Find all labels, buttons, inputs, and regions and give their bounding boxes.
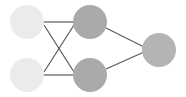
neural-network-diagram (0, 0, 186, 97)
network-node (73, 5, 107, 39)
network-node (142, 33, 176, 67)
diagram-canvas (0, 0, 186, 97)
network-node (10, 58, 44, 92)
network-node (73, 58, 107, 92)
network-node (10, 5, 44, 39)
